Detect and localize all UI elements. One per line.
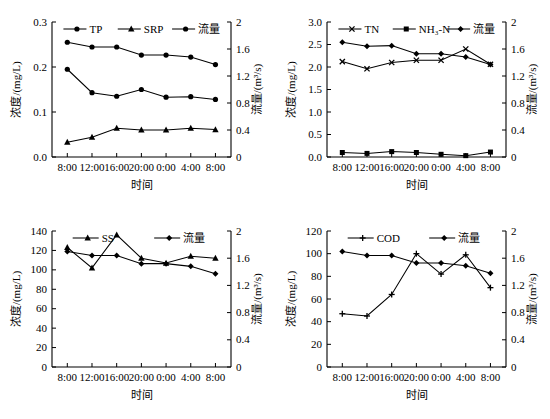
data-point-SS [113, 231, 119, 237]
legend: TNNH₃-N流量 [338, 22, 495, 35]
data-point-NH₃-N [389, 149, 394, 154]
legend: COD流量 [348, 231, 481, 244]
y-axis-label-left: 浓度/(mg/L) [284, 61, 298, 118]
data-point-流量 [89, 252, 95, 258]
data-point-NH₃-N [364, 151, 369, 156]
data-point-流量 [139, 52, 144, 57]
y-tick-label-left: 0 [317, 361, 323, 373]
y-tick-label-left: 0.3 [33, 16, 47, 28]
chart-panel-bottom-left: 02040608010012014000.40.81.21.628:0012:0… [0, 209, 275, 419]
panel-tp-srp: 0.00.10.20.300.40.81.21.628:0012:0016:00… [0, 0, 275, 209]
data-point-NH₃-N [463, 153, 468, 158]
y-tick-label-left: 60 [36, 302, 48, 314]
chart-panel-top-right: 0.00.51.01.52.02.53.000.40.81.21.628:001… [275, 0, 550, 209]
y-tick-label-left: 3.0 [308, 16, 322, 28]
data-point-流量 [463, 54, 469, 60]
legend-label: 流量 [473, 22, 495, 35]
data-point-流量 [463, 263, 469, 269]
data-point-流量 [65, 40, 70, 45]
x-tick-label: 16:00 [379, 161, 405, 173]
y-tick-label-right: 2 [511, 225, 517, 237]
y-tick-label-right: 0.8 [236, 97, 250, 109]
x-tick-label: 16:00 [104, 371, 130, 383]
data-point-COD [339, 311, 345, 317]
series-流量 [339, 39, 493, 67]
legend-marker-circle [74, 26, 79, 31]
data-point-流量 [89, 44, 94, 49]
y-tick-label-left: 80 [36, 283, 48, 295]
series-TP [65, 67, 218, 102]
y-tick-label-left: 2.5 [308, 38, 322, 50]
data-point-流量 [212, 271, 218, 277]
series-流量 [64, 248, 218, 276]
data-point-NH₃-N [439, 152, 444, 157]
y-tick-label-right: 0.4 [236, 124, 250, 136]
axes [327, 22, 506, 157]
legend-marker-diamond [458, 26, 464, 32]
data-point-流量 [163, 261, 169, 267]
axes [52, 231, 231, 367]
x-tick-label: 8:00 [333, 161, 353, 173]
x-tick-label: 12:00 [79, 371, 105, 383]
x-tick-label: 8:00 [481, 161, 501, 173]
y-tick-label-right: 0.8 [236, 306, 250, 318]
data-point-TN [463, 46, 468, 51]
figure-grid: 0.00.10.20.300.40.81.21.628:0012:0016:00… [0, 0, 550, 419]
y-tick-label-left: 0.2 [33, 61, 47, 73]
data-point-流量 [188, 55, 193, 60]
x-tick-label: 0:00 [431, 371, 451, 383]
x-tick-label: 8:00 [481, 371, 501, 383]
y-tick-label-left: 100 [31, 263, 48, 275]
x-tick-label: 4:00 [456, 371, 476, 383]
y-axis-label-left: 浓度/(mg/L) [9, 61, 23, 118]
x-tick-label: 12:00 [354, 371, 380, 383]
x-tick-label: 8:00 [333, 371, 353, 383]
y-tick-label-right: 0.8 [511, 97, 525, 109]
legend-label: COD [377, 232, 400, 244]
legend-marker-plus [360, 235, 366, 241]
x-axis-label: 时间 [406, 389, 428, 401]
panel-cod: 02040608010012000.40.81.21.628:0012:0016… [275, 209, 550, 419]
y-tick-label-right: 1.6 [511, 252, 525, 264]
chart-panel-bottom-right: 02040608010012000.40.81.21.628:0012:0016… [275, 209, 550, 419]
data-point-流量 [138, 261, 144, 267]
y-tick-label-left: 120 [31, 244, 48, 256]
data-point-SS [188, 253, 194, 259]
data-point-SRP [113, 125, 119, 131]
x-tick-label: 4:00 [181, 371, 201, 383]
x-tick-label: 0:00 [156, 371, 176, 383]
x-tick-label: 20:00 [129, 161, 155, 173]
y-tick-label-left: 120 [306, 225, 323, 237]
data-point-流量 [188, 263, 194, 269]
legend: TPSRP流量 [63, 22, 220, 35]
data-point-流量 [339, 248, 345, 254]
x-tick-label: 0:00 [156, 161, 176, 173]
y-tick-label-right: 2 [236, 225, 242, 237]
legend-marker-diamond [441, 235, 447, 241]
legend-label: TP [89, 23, 102, 35]
x-axis-label: 时间 [406, 179, 428, 191]
x-tick-label: 20:00 [404, 161, 430, 173]
x-tick-label: 12:00 [79, 161, 105, 173]
y-tick-label-left: 100 [306, 247, 323, 259]
data-point-流量 [389, 43, 395, 49]
x-tick-label: 4:00 [456, 161, 476, 173]
y-tick-label-right: 0 [236, 151, 242, 163]
y-tick-label-right: 0 [511, 151, 517, 163]
legend-label: SRP [144, 23, 164, 35]
y-tick-label-left: 0.1 [33, 106, 47, 118]
y-axis-label-right: 流量/(m³/s) [525, 63, 539, 115]
y-tick-label-right: 1.2 [236, 70, 250, 82]
legend-label: 流量 [198, 22, 220, 35]
y-axis-label-right: 流量/(m³/s) [525, 273, 539, 325]
y-tick-label-right: 0.4 [511, 124, 525, 136]
data-point-流量 [364, 43, 370, 49]
data-point-TP [139, 87, 144, 92]
y-tick-label-left: 0 [42, 361, 48, 373]
data-point-流量 [114, 44, 119, 49]
y-axis-label-left: 浓度/(mg/L) [9, 271, 23, 328]
y-tick-label-left: 60 [311, 293, 323, 305]
data-point-流量 [438, 51, 444, 57]
y-tick-label-left: 2.0 [308, 61, 322, 73]
series-SRP [64, 125, 219, 145]
